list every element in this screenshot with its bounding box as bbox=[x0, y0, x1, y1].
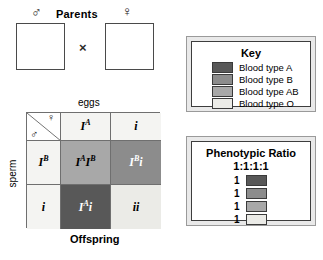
punnett-square: ♀ ♂ IA i IB IAIB IBi i IAi ii bbox=[26, 112, 160, 228]
ratio-value: 1:1:1:1 bbox=[198, 160, 304, 172]
corner-male-icon: ♂ bbox=[30, 129, 38, 140]
corner-female-icon: ♀ bbox=[47, 113, 55, 123]
punnett-cell-4: ii bbox=[111, 185, 161, 229]
key-label-a: Blood type A bbox=[239, 62, 292, 73]
ratio-swatch-b bbox=[246, 188, 267, 199]
ratio-count-o: 1 bbox=[234, 214, 240, 225]
key-title: Key bbox=[198, 47, 304, 59]
col-header-allele-1: IA bbox=[80, 119, 90, 134]
key-panel-inner: Key Blood type A Blood type B Blood type… bbox=[191, 41, 311, 107]
key-label-ab: Blood type AB bbox=[239, 86, 299, 97]
punnett-row-header-2: i bbox=[27, 185, 61, 229]
punnett-col-header-2: i bbox=[111, 113, 161, 141]
ratio-swatch-ab bbox=[246, 201, 267, 212]
parents-title: Parents bbox=[56, 8, 98, 20]
punnett-cell-2: IBi bbox=[111, 141, 161, 185]
key-row: Blood type O bbox=[212, 98, 304, 109]
key-row: Blood type AB bbox=[212, 86, 304, 97]
row-header-allele-1: IB bbox=[38, 155, 48, 170]
eggs-axis-label: eggs bbox=[78, 97, 100, 108]
offspring-label: Offspring bbox=[70, 233, 120, 245]
parent-male-genotype: IBi bbox=[34, 39, 47, 54]
ratio-swatch-o bbox=[246, 214, 267, 225]
punnett-col-header-1: IA bbox=[61, 113, 111, 141]
ratio-row: 1 bbox=[234, 201, 304, 212]
key-swatch-b bbox=[212, 74, 233, 85]
ratio-count-b: 1 bbox=[234, 188, 240, 199]
punnett-cell-4-genotype: ii bbox=[133, 200, 140, 215]
ratio-row: 1 bbox=[234, 214, 304, 225]
parent-female-genotype-box: IAi bbox=[105, 23, 154, 70]
row-header-allele-2: i bbox=[42, 200, 45, 215]
key-label-b: Blood type B bbox=[239, 74, 293, 85]
key-swatch-ab bbox=[212, 86, 233, 97]
key-swatch-a bbox=[212, 62, 233, 73]
ratio-swatch-a bbox=[246, 175, 267, 186]
sperm-axis-label: sperm bbox=[7, 152, 18, 196]
punnett-cell-1: IAIB bbox=[61, 141, 111, 185]
ratio-count-a: 1 bbox=[234, 175, 240, 186]
phenotypic-ratio-panel: Phenotypic Ratio 1:1:1:1 1 1 1 1 bbox=[186, 136, 316, 226]
ratio-row: 1 bbox=[234, 175, 304, 186]
key-row: Blood type A bbox=[212, 62, 304, 73]
punnett-cell-3-genotype: IAi bbox=[79, 200, 92, 215]
ratio-row: 1 bbox=[234, 188, 304, 199]
parent-female-gender-icon: ♀ bbox=[122, 4, 133, 18]
key-label-o: Blood type O bbox=[239, 98, 294, 109]
punnett-row-header-1: IB bbox=[27, 141, 61, 185]
parent-female-genotype: IAi bbox=[123, 39, 136, 54]
key-swatch-o bbox=[212, 98, 233, 109]
key-panel: Key Blood type A Blood type B Blood type… bbox=[186, 36, 316, 112]
parent-male-genotype-box: IBi bbox=[16, 23, 65, 70]
punnett-cell-3: IAi bbox=[61, 185, 111, 229]
key-row: Blood type B bbox=[212, 74, 304, 85]
punnett-corner-cell: ♀ ♂ bbox=[27, 113, 61, 141]
parent-male-gender-icon: ♂ bbox=[31, 5, 42, 19]
ratio-panel-inner: Phenotypic Ratio 1:1:1:1 1 1 1 1 bbox=[191, 141, 311, 221]
col-header-allele-2: i bbox=[134, 119, 137, 134]
punnett-cell-2-genotype: IBi bbox=[129, 155, 142, 170]
cross-symbol: × bbox=[79, 40, 87, 55]
punnett-cell-1-genotype: IAIB bbox=[75, 155, 95, 170]
ratio-title: Phenotypic Ratio bbox=[198, 147, 304, 159]
ratio-count-ab: 1 bbox=[234, 201, 240, 212]
